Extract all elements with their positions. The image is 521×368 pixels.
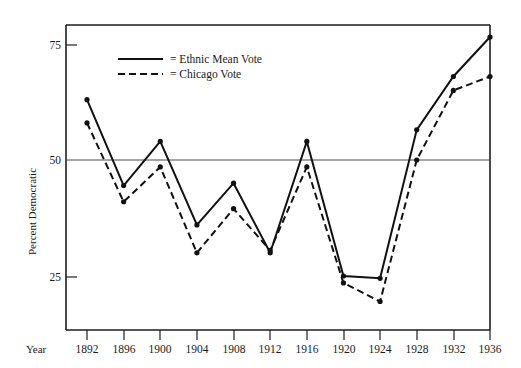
data-point xyxy=(451,88,456,93)
x-tick-label-1904: 1904 xyxy=(186,343,209,355)
data-point xyxy=(304,164,309,169)
data-point xyxy=(487,34,492,39)
x-tick-label-1928: 1928 xyxy=(406,343,429,355)
x-tick-label-1936: 1936 xyxy=(479,343,502,355)
x-tick-label-1912: 1912 xyxy=(259,343,282,355)
y-tick-label-50: 50 xyxy=(50,154,62,166)
x-tick-label-1932: 1932 xyxy=(443,343,466,355)
data-point xyxy=(158,164,163,169)
x-tick-label-1916: 1916 xyxy=(296,343,319,355)
data-point xyxy=(121,183,126,188)
x-tick-label-1900: 1900 xyxy=(149,343,172,355)
y-tick-label-75: 75 xyxy=(50,39,62,51)
data-point xyxy=(121,199,126,204)
data-point xyxy=(377,276,382,281)
x-tick-label-1908: 1908 xyxy=(223,343,246,355)
data-point xyxy=(451,74,456,79)
x-tick-label-1896: 1896 xyxy=(113,343,136,355)
legend-label-ethnic-mean-vote: = Ethnic Mean Vote xyxy=(170,53,262,65)
y-axis-title: Percent Democratic xyxy=(26,168,38,255)
data-point xyxy=(268,248,273,253)
data-point xyxy=(487,74,492,79)
data-point xyxy=(158,139,163,144)
data-point xyxy=(377,299,382,304)
x-tick-label-1924: 1924 xyxy=(369,343,392,355)
data-point xyxy=(414,127,419,132)
y-tick-label-25: 25 xyxy=(50,271,62,283)
data-point xyxy=(194,222,199,227)
x-axis-title: Year xyxy=(26,343,47,355)
data-point xyxy=(231,181,236,186)
legend-label-chicago-vote: = Chicago Vote xyxy=(170,68,241,81)
data-point xyxy=(341,280,346,285)
x-tick-label-1920: 1920 xyxy=(333,343,356,355)
data-point xyxy=(231,206,236,211)
x-tick-label-1892: 1892 xyxy=(76,343,99,355)
data-point xyxy=(304,139,309,144)
chart-figure: 75 50 25 Percent Democratic 1892 1896 19… xyxy=(0,0,521,368)
line-chart-canvas: 75 50 25 Percent Democratic 1892 1896 19… xyxy=(0,0,521,368)
data-point xyxy=(414,157,419,162)
data-point xyxy=(84,120,89,125)
data-point xyxy=(194,250,199,255)
data-point xyxy=(84,97,89,102)
